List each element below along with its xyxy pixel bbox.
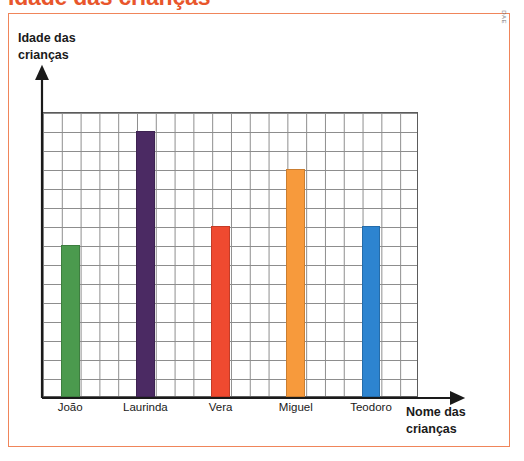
x-tick-label: Laurinda [123, 401, 168, 413]
bar-miguel [286, 169, 305, 397]
bar-laurinda [136, 131, 155, 397]
x-tick-label: João [58, 401, 83, 413]
x-tick-label: Miguel [279, 401, 313, 413]
x-axis-title: Nome das crianças [406, 404, 516, 438]
plot-area [42, 112, 418, 397]
x-tick-labels: JoãoLaurindaVeraMiguelTeodoro [42, 401, 418, 421]
y-axis-title: Idade das crianças [18, 30, 128, 64]
page-title: Idade das crianças [8, 0, 210, 11]
bar-teodoro [362, 226, 381, 397]
credit-mark: DAE [501, 10, 507, 24]
x-tick-label: Vera [209, 401, 233, 413]
bar-joão [61, 245, 80, 397]
x-tick-label: Teodoro [350, 401, 392, 413]
bar-vera [211, 226, 230, 397]
bar-series [42, 112, 418, 397]
